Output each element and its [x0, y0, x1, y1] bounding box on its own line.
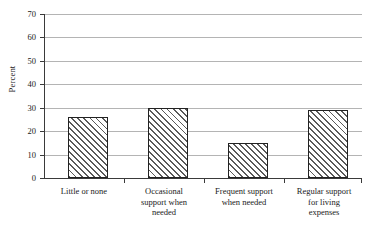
x-category-line: needed [124, 207, 204, 218]
x-category-line: Little or none [44, 186, 124, 197]
x-category-line: for living [284, 197, 364, 208]
x-tick-mark [204, 179, 205, 183]
x-category-line: expenses [284, 207, 364, 218]
x-axis-line [44, 178, 362, 179]
y-tick-mark [40, 131, 45, 132]
y-tick-mark [40, 84, 45, 85]
x-category-line: support when [124, 197, 204, 208]
gridline [44, 84, 362, 85]
y-tick-label-30: 30 [2, 104, 36, 113]
y-tick-label-0: 0 [2, 174, 36, 183]
bar-little-or-none [68, 117, 108, 178]
x-tick-mark [124, 179, 125, 183]
y-tick-label-10: 10 [2, 151, 36, 160]
y-tick-label-20: 20 [2, 127, 36, 136]
x-category-line: Frequent support [204, 186, 284, 197]
x-category-label-2: Frequent support when needed [204, 186, 284, 207]
x-category-line: Occasional [124, 186, 204, 197]
gridline [44, 108, 362, 109]
bar-frequent-support [228, 143, 268, 178]
y-tick-mark [40, 61, 45, 62]
y-tick-mark [40, 37, 45, 38]
x-tick-mark [361, 179, 362, 183]
y-tick-label-70: 70 [2, 10, 36, 19]
x-category-label-0: Little or none [44, 186, 124, 197]
x-category-label-1: Occasional support when needed [124, 186, 204, 218]
x-category-label-3: Regular support for living expenses [284, 186, 364, 218]
y-tick-label-50: 50 [2, 57, 36, 66]
x-tick-mark [284, 179, 285, 183]
gridline [44, 14, 362, 15]
bar-occasional-support [148, 108, 188, 178]
x-category-line: when needed [204, 197, 284, 208]
gridline [44, 61, 362, 62]
y-tick-mark [40, 108, 45, 109]
gridline [44, 37, 362, 38]
y-tick-mark [40, 14, 45, 15]
y-tick-mark [40, 178, 45, 179]
bar-regular-support [308, 110, 348, 178]
y-tick-label-40: 40 [2, 80, 36, 89]
plot-area [44, 14, 362, 178]
x-category-line: Regular support [284, 186, 364, 197]
bar-chart: Percent 70 60 50 40 30 20 10 0 Little or… [0, 0, 371, 238]
y-tick-mark [40, 155, 45, 156]
y-tick-label-60: 60 [2, 33, 36, 42]
